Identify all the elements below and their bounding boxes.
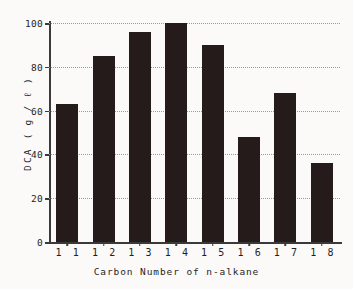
y-tick-mark (45, 242, 49, 244)
x-axis-tick: 1 2 (85, 23, 121, 242)
x-tick-mark (212, 242, 214, 246)
x-axis-tick: 1 8 (304, 23, 340, 242)
y-axis-title: DCA ( g / ℓ ) (22, 34, 34, 214)
x-tick-label: 1 6 (235, 247, 263, 258)
y-tick-label: 100 (25, 18, 43, 29)
x-axis-tick: 1 6 (231, 23, 267, 242)
x-axis-tick: 1 5 (195, 23, 231, 242)
x-tick-mark (103, 242, 105, 246)
x-axis-line (49, 242, 342, 244)
x-tick-mark (321, 242, 323, 246)
x-tick-mark (285, 242, 287, 246)
y-axis-title-text: DCA (22, 147, 33, 171)
x-tick-label: 1 3 (126, 247, 154, 258)
x-axis-tick: 1 1 (49, 23, 85, 242)
x-axis-tick: 1 4 (158, 23, 194, 242)
x-tick-mark (248, 242, 250, 246)
plot-area: 020406080100 1 11 21 31 41 51 61 71 8 (49, 23, 340, 242)
x-tick-mark (66, 242, 68, 246)
x-axis-title: Carbon Number of n-alkane (0, 266, 353, 277)
x-tick-label: 1 1 (53, 247, 81, 258)
x-tick-label: 1 5 (198, 247, 226, 258)
x-axis-tick: 1 3 (122, 23, 158, 242)
x-axis-tick: 1 7 (267, 23, 303, 242)
x-tick-label: 1 4 (162, 247, 190, 258)
x-tick-mark (139, 242, 141, 246)
x-tick-mark (176, 242, 178, 246)
x-tick-label: 1 2 (89, 247, 117, 258)
x-tick-label: 1 8 (308, 247, 336, 258)
chart-figure: 020406080100 1 11 21 31 41 51 61 71 8 Ca… (0, 0, 353, 289)
y-tick-label: 0 (37, 237, 43, 248)
x-tick-label: 1 7 (271, 247, 299, 258)
y-axis-unit-text: ( g / ℓ ) (22, 77, 33, 139)
